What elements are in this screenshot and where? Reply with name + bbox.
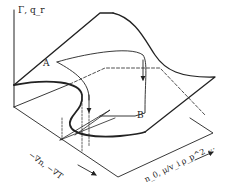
x-arrow-left [78,165,96,175]
vertical-axis-label: Γ, q_r [18,5,45,15]
surface-edge-left [14,13,113,85]
point-a-label: A [43,58,50,68]
surface-s-curve-back [113,13,215,132]
hysteresis-path [57,51,146,116]
point-b-label: B [137,110,144,120]
bifurcation-diagram [0,0,226,194]
